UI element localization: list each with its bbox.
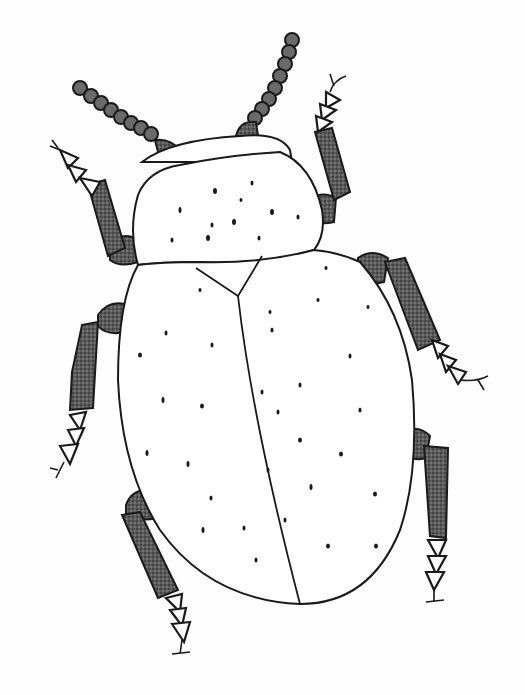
beetle-drawing [0,0,525,695]
leg-middle-left [50,303,126,478]
beetle-pronotum [133,135,323,265]
antenna-left [73,81,180,152]
beetle-elytra [118,250,414,604]
antenna-right [236,33,299,136]
beetle-illustration [0,0,525,695]
leg-front-left [50,140,138,265]
